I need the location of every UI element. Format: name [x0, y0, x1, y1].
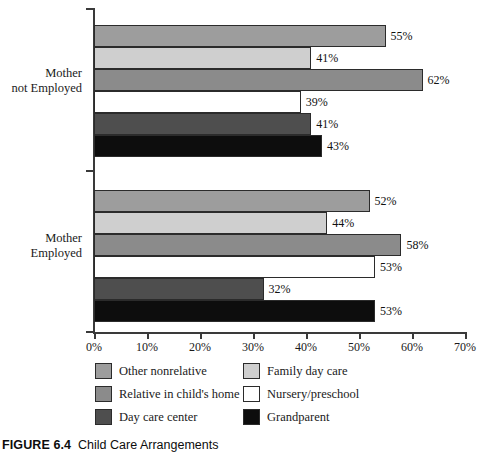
value-axis-tick-label: 0% [74, 340, 114, 355]
value-axis-tick-label: 30% [233, 340, 273, 355]
bar-value-label: 44% [332, 215, 354, 231]
bar[interactable] [94, 278, 264, 300]
value-axis-tick-label: 60% [392, 340, 432, 355]
value-axis-tick [306, 332, 308, 339]
category-label-line-2: not Employed [2, 81, 82, 96]
bar-value-label: 39% [306, 94, 328, 110]
bar[interactable] [94, 91, 301, 113]
bar-row: 44% [94, 212, 465, 234]
bar[interactable] [94, 234, 401, 256]
value-axis-tick-label: 20% [180, 340, 220, 355]
legend-label: Nursery/preschool [267, 385, 359, 404]
bar[interactable] [94, 300, 375, 322]
legend-label: Family day care [267, 362, 348, 381]
bar-row: 43% [94, 135, 465, 157]
bar-value-label: 43% [327, 138, 349, 154]
legend-swatch-icon [95, 386, 112, 402]
bar-value-label: 53% [380, 303, 402, 319]
value-axis-tick [465, 332, 467, 339]
bar[interactable] [94, 113, 311, 135]
bar[interactable] [94, 69, 423, 91]
legend-swatch-icon [95, 409, 112, 425]
bar-value-label: 32% [269, 281, 291, 297]
bar-value-label: 62% [428, 72, 450, 88]
chart-legend: Other nonrelativeFamily day careRelative… [95, 362, 465, 428]
value-axis-tick [147, 332, 149, 339]
value-axis-tick-label: 10% [127, 340, 167, 355]
bar-row: 53% [94, 300, 465, 322]
bar-row: 41% [94, 113, 465, 135]
bar-row: 58% [94, 234, 465, 256]
legend-swatch-icon [243, 409, 260, 425]
value-axis-tick-label: 40% [286, 340, 326, 355]
value-axis-tick [253, 332, 255, 339]
bar[interactable] [94, 25, 386, 47]
value-axis-line [93, 332, 465, 334]
bar-row: 53% [94, 256, 465, 278]
legend-swatch-icon [243, 386, 260, 402]
figure-number: FIGURE 6.4 [2, 438, 71, 452]
figure-caption: FIGURE 6.4Child Care Arrangements [2, 437, 218, 454]
category-label-mother-employed: Mother Employed [2, 231, 82, 261]
value-axis-tick-label: 50% [339, 340, 379, 355]
bar-chart-plot-area: Mother not Employed Mother Employed 55%4… [0, 0, 483, 360]
legend-label: Day care center [119, 408, 197, 427]
category-axis-tick-middle [86, 170, 94, 172]
category-label-line-1: Mother [2, 231, 82, 246]
figure-title: Child Care Arrangements [78, 438, 218, 452]
bar-value-label: 55% [391, 28, 413, 44]
bar-row: 55% [94, 25, 465, 47]
value-axis-tick [412, 332, 414, 339]
bar-value-label: 41% [316, 50, 338, 66]
bar-value-label: 41% [316, 116, 338, 132]
category-label-line-2: Employed [2, 246, 82, 261]
bar-row: 39% [94, 91, 465, 113]
legend-label: Other nonrelative [119, 362, 207, 381]
bar[interactable] [94, 212, 327, 234]
value-axis-tick [94, 332, 96, 339]
value-axis-tick [200, 332, 202, 339]
legend-swatch-icon [243, 363, 260, 379]
bar[interactable] [94, 256, 375, 278]
bar-row: 32% [94, 278, 465, 300]
figure-child-care-arrangements: Mother not Employed Mother Employed 55%4… [0, 0, 483, 464]
legend-label: Relative in child's home [119, 385, 240, 404]
bar-row: 52% [94, 190, 465, 212]
category-axis-tick-top [86, 8, 94, 10]
legend-label: Grandparent [267, 408, 329, 427]
legend-swatch-icon [95, 363, 112, 379]
bar[interactable] [94, 135, 322, 157]
bar-row: 41% [94, 47, 465, 69]
bar-value-label: 58% [406, 237, 428, 253]
bar-value-label: 52% [375, 193, 397, 209]
bar[interactable] [94, 47, 311, 69]
bar[interactable] [94, 190, 370, 212]
value-axis-tick [359, 332, 361, 339]
value-axis-tick-label: 70% [445, 340, 483, 355]
bar-row: 62% [94, 69, 465, 91]
category-label-mother-not-employed: Mother not Employed [2, 66, 82, 96]
bar-value-label: 53% [380, 259, 402, 275]
category-label-line-1: Mother [2, 66, 82, 81]
